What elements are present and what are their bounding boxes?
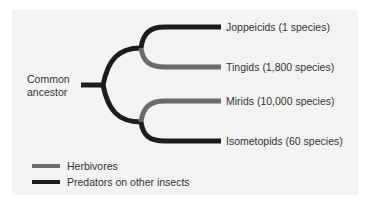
- taxon-label-isometopids: Isometopids (60 species): [226, 135, 343, 147]
- taxon-label-mirids: Mirids (10,000 species): [226, 95, 335, 107]
- branch-lower-clade: [103, 85, 141, 122]
- root-label-line2: ancestor: [27, 86, 70, 99]
- legend-label-herbivores: Herbivores: [67, 160, 118, 172]
- taxon-label-joppeicids: Joppeicids (1 species): [226, 21, 330, 33]
- legend-item-predators: Predators on other insects: [32, 176, 190, 188]
- legend-item-herbivores: Herbivores: [32, 160, 118, 172]
- branch-mirids: [141, 101, 221, 122]
- taxon-label-tingids: Tingids (1,800 species): [226, 61, 334, 73]
- branch-joppeicids: [141, 27, 221, 48]
- branch-upper-clade: [103, 48, 141, 85]
- legend-label-predators: Predators on other insects: [67, 176, 190, 188]
- predator-swatch: [32, 180, 60, 184]
- branch-tingids: [141, 48, 221, 67]
- root-label: Common ancestor: [27, 73, 70, 99]
- herbivore-swatch: [32, 164, 60, 168]
- branch-isometopids: [141, 122, 221, 141]
- root-label-line1: Common: [27, 73, 70, 86]
